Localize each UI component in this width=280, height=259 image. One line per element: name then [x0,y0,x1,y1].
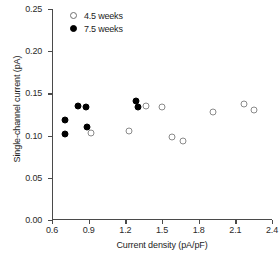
data-point [168,134,175,141]
y-tick-label: 0.10 [25,131,42,141]
x-tick-label: 2.1 [229,225,241,235]
x-tick [235,220,236,224]
x-tick-label: 1.8 [193,225,205,235]
data-point [179,137,186,144]
data-point [134,103,141,110]
data-point [62,117,69,124]
data-point [74,103,81,110]
y-tick-label: 0.15 [25,88,42,98]
scatter-plot-figure: 0.000.050.100.150.200.25 0.60.91.21.51.8… [0,0,280,259]
y-tick: 0.05 [48,178,52,179]
x-tick-label: 0.9 [83,225,95,235]
y-tick-label: 0.20 [25,46,42,56]
data-point [240,100,247,107]
y-axis-title: Single-channel current (pA) [12,29,22,189]
y-tick: 0.25 [48,9,52,10]
legend-item-label: 7.5 weeks [84,24,123,34]
open-circle-icon [70,12,77,19]
y-tick-label: 0.05 [25,173,42,183]
data-point [62,130,69,137]
x-tick-label: 1.5 [156,225,168,235]
x-tick-label: 1.2 [119,225,131,235]
data-point [250,107,257,114]
y-tick: 0.20 [48,51,52,52]
x-tick [52,220,53,224]
data-point [159,103,166,110]
y-tick-label: 0.00 [25,215,42,225]
y-axis-line [52,9,53,220]
data-point [210,108,217,115]
x-axis-title: Current density (pA/pF) [52,240,272,250]
x-tick [125,220,126,224]
x-tick [162,220,163,224]
data-point [126,127,133,134]
x-tick-label: 0.6 [46,225,58,235]
x-tick [272,220,273,224]
data-point [143,103,150,110]
y-tick-label: 0.25 [25,4,42,14]
x-tick [199,220,200,224]
y-tick: 0.10 [48,136,52,137]
x-tick-label: 2.4 [266,225,278,235]
plot-area: 0.000.050.100.150.200.25 0.60.91.21.51.8… [52,9,272,220]
legend-item-label: 4.5 weeks [84,11,123,21]
data-point [88,130,95,137]
legend-item: 4.5 weeks [70,9,123,22]
data-point [84,124,91,131]
legend: 4.5 weeks7.5 weeks [70,9,123,35]
x-tick [89,220,90,224]
filled-circle-icon [70,25,77,32]
data-point [83,103,90,110]
y-tick: 0.15 [48,93,52,94]
legend-item: 7.5 weeks [70,22,123,35]
